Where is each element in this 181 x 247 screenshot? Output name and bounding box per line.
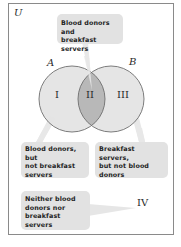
set-a-label: A xyxy=(47,57,54,68)
callout-line: donors xyxy=(99,171,164,180)
pointer-bottom xyxy=(88,204,136,216)
callout-line: not breakfast xyxy=(25,162,85,171)
callout-a-only: Blood donors, but not breakfast servers xyxy=(21,142,89,178)
callout-line: Neither blood xyxy=(25,195,86,204)
set-b-label: B xyxy=(129,56,136,67)
callout-line: servers xyxy=(25,171,85,180)
callout-line: but not blood xyxy=(99,162,164,171)
callout-line: breakfast servers xyxy=(61,36,119,53)
callout-neither: Neither blood donors nor breakfast serve… xyxy=(21,191,90,230)
callout-line: breakfast servers xyxy=(25,212,86,229)
callout-line: donors nor xyxy=(25,204,86,213)
region-iii-label: III xyxy=(117,89,129,100)
region-iv-label: IV xyxy=(137,197,148,208)
callout-b-only: Breakfast servers, but not blood donors xyxy=(95,142,168,178)
callout-line: Blood donors, but xyxy=(25,145,85,162)
region-i-label: I xyxy=(55,89,59,100)
universe-label: U xyxy=(14,7,22,18)
callout-line: Blood donors and xyxy=(61,19,119,36)
callout-line: Breakfast servers, xyxy=(99,145,164,162)
callout-intersection: Blood donors and breakfast servers xyxy=(57,14,123,44)
region-ii-label: II xyxy=(86,89,94,100)
